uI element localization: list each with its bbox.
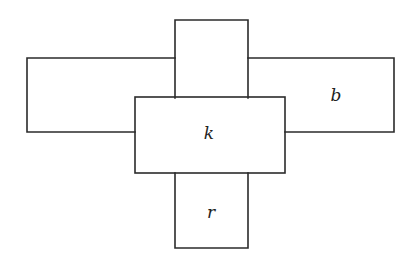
label-b: b [331,87,342,104]
right-band-b [248,58,394,132]
label-r: r [207,204,215,221]
label-k: k [204,125,214,142]
top-rectangle [175,20,248,98]
left-band [27,58,175,132]
